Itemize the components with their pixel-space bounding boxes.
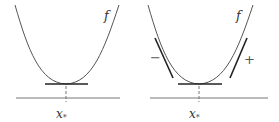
right-f-label: f — [235, 8, 243, 23]
plus-sign: + — [244, 52, 255, 67]
diagram-canvas: f x* f − + x* — [0, 0, 279, 122]
left-f-label: f — [103, 8, 111, 23]
minus-sign: − — [150, 50, 161, 65]
right-panel: f − + x* — [148, 5, 268, 122]
right-xstar-label: x* — [189, 107, 200, 122]
left-xstar-label: x* — [56, 107, 67, 122]
left-panel: f x* — [15, 5, 120, 122]
